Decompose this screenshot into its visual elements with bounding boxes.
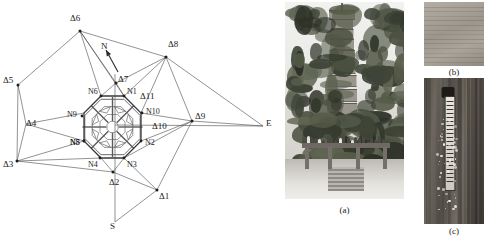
gate-beam <box>302 143 390 148</box>
gauge-tick <box>447 109 454 110</box>
gate-post <box>356 147 360 169</box>
gauge-tick <box>447 133 454 134</box>
station-point <box>191 120 194 123</box>
gauge-tick <box>447 105 454 106</box>
wall-speck <box>449 118 452 121</box>
node-label-N2: N2 <box>145 139 155 147</box>
inner-node-point <box>123 95 126 98</box>
brick-joint <box>424 34 484 35</box>
station-point <box>112 171 115 174</box>
gauge-tick <box>447 173 454 174</box>
wall-speck <box>454 166 457 169</box>
brick-joint <box>424 11 484 12</box>
wall-streak <box>428 78 431 224</box>
gate-post <box>383 147 387 169</box>
wall-speck <box>438 164 439 165</box>
station-label-Δ6: Δ6 <box>70 14 80 23</box>
wall-speck <box>447 127 449 129</box>
node-label-N1: N1 <box>127 88 137 96</box>
network-edge <box>80 31 166 57</box>
wall-streak <box>480 78 482 224</box>
distance-label-Δ11: Δ11 <box>140 92 154 101</box>
tree-blob <box>314 17 336 34</box>
compass-label-east: E <box>266 119 272 128</box>
wall-speck <box>447 170 450 173</box>
station-label-Δ5: Δ5 <box>3 76 13 85</box>
gauge-tick <box>447 153 454 154</box>
network-edge <box>18 85 26 124</box>
brick-joint <box>424 57 484 58</box>
gate-post <box>305 147 309 169</box>
node-label-N6: N6 <box>88 88 98 96</box>
network-edge <box>192 121 263 126</box>
brick-joint <box>424 62 484 63</box>
node-label-N10: N10 <box>146 108 160 116</box>
wall-speck <box>455 138 457 140</box>
tree-blob <box>320 80 352 88</box>
gate-post <box>328 147 332 169</box>
entrance-gate <box>302 143 390 169</box>
wall-streak <box>475 78 478 224</box>
network-edge <box>113 158 124 172</box>
station-point <box>17 84 20 87</box>
wall-speck <box>439 161 440 162</box>
caption-a: (a) <box>285 205 404 215</box>
wall-speck <box>454 180 456 182</box>
node-label-N9: N9 <box>67 111 77 119</box>
network-edge <box>157 121 192 190</box>
gauge-tick <box>447 157 454 158</box>
pagoda-plan-ring-3 <box>107 122 118 133</box>
wall-speck <box>440 135 441 136</box>
inner-node-point <box>123 157 126 160</box>
compass-axis-ew <box>115 125 263 126</box>
masonry-closeup-photo <box>424 2 484 66</box>
station-label-Δ8: Δ8 <box>168 40 178 49</box>
compass-label-north: N <box>101 42 108 51</box>
network-edge <box>116 83 124 96</box>
wall-speck <box>438 140 439 141</box>
survey-network-diagram: Δ6Δ8Δ9Δ1Δ2Δ3Δ5Δ7Δ4Δ10Δ11N1N2N3N4N5N6N8N9… <box>0 0 285 242</box>
gauge-tick <box>447 177 454 178</box>
tree-blob <box>362 66 392 85</box>
inner-node-point <box>99 157 102 160</box>
distance-label-Δ10: Δ10 <box>152 122 167 131</box>
tree-blob <box>394 53 404 81</box>
wall-speck <box>440 172 442 174</box>
brick-joint <box>424 53 484 54</box>
caption-b: (b) <box>424 67 484 77</box>
network-edge <box>17 124 26 161</box>
station-label-Δ7: Δ7 <box>118 75 128 84</box>
network-edge <box>17 161 113 172</box>
node-label-N4: N4 <box>88 161 98 169</box>
inner-node-point <box>83 140 86 143</box>
wall-streak <box>436 78 440 224</box>
station-point <box>16 160 19 163</box>
gauge-tick <box>447 101 454 102</box>
wall-speck <box>452 162 453 163</box>
pagoda-photo <box>285 2 404 199</box>
inner-node-point <box>81 115 84 118</box>
inner-node-point <box>100 95 103 98</box>
tree-blob <box>294 53 305 69</box>
wall-speck <box>439 176 441 178</box>
network-edge <box>101 158 113 172</box>
station-point <box>79 30 82 33</box>
wall-speck <box>443 143 445 145</box>
wall-speck <box>442 188 445 191</box>
wall-speck <box>453 142 454 143</box>
wall-speck <box>452 149 453 150</box>
wall-streak <box>470 78 472 224</box>
wall-speck <box>455 197 456 198</box>
gauge-tick <box>447 113 454 114</box>
wall-streak <box>459 78 462 224</box>
station-label-Δ1: Δ1 <box>159 192 169 201</box>
tree-blob <box>309 113 338 128</box>
network-edge <box>141 57 166 113</box>
station-label-Δ2: Δ2 <box>109 178 119 187</box>
network-edge <box>166 57 263 126</box>
brick-joint <box>424 20 484 21</box>
network-svg <box>0 0 285 242</box>
crack-gauge-photo <box>424 78 484 224</box>
distance-label-Δ4: Δ4 <box>26 119 36 128</box>
tree-blob <box>332 4 363 29</box>
